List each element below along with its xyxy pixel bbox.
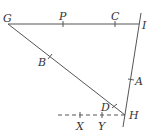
label-Y: Y [98,120,107,133]
label-D: D [100,101,110,114]
label-X: X [75,120,85,133]
label-C: C [111,10,120,23]
label-P: P [58,10,67,23]
tick-A [128,79,134,80]
label-I: I [141,19,147,32]
label-A: A [134,75,143,88]
diagram-svg: G P C I B A D H X Y [0,0,154,137]
label-H: H [128,109,139,122]
label-G: G [3,12,12,25]
label-B: B [37,56,46,69]
geometry-diagram: G P C I B A D H X Y [0,0,154,137]
